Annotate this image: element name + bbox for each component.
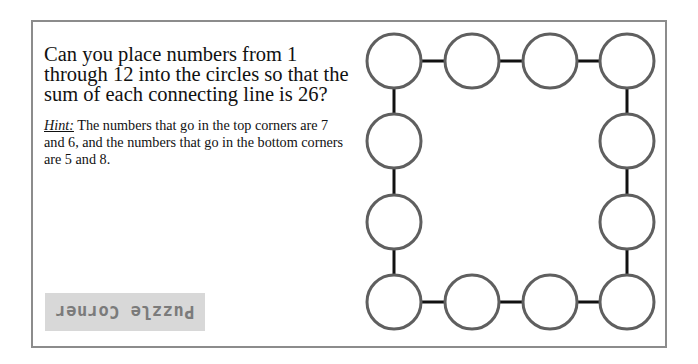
circle-bottom-left-corner[interactable] xyxy=(367,275,421,329)
circle-top-right-corner[interactable] xyxy=(600,34,654,88)
circle-bottom-3[interactable] xyxy=(523,275,577,329)
circle-right-2[interactable] xyxy=(600,114,654,168)
connectors xyxy=(394,61,627,302)
circle-top-3[interactable] xyxy=(523,34,577,88)
circle-bottom-2[interactable] xyxy=(445,275,499,329)
circle-top-2[interactable] xyxy=(445,34,499,88)
circle-top-left-corner[interactable] xyxy=(367,34,421,88)
circles xyxy=(367,34,654,329)
circle-left-3[interactable] xyxy=(367,195,421,249)
circle-left-2[interactable] xyxy=(367,114,421,168)
circle-bottom-right-corner[interactable] xyxy=(600,275,654,329)
circle-right-3[interactable] xyxy=(600,195,654,249)
puzzle-diagram xyxy=(0,0,698,364)
